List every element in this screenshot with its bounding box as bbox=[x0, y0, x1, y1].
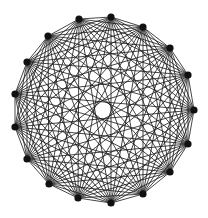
graph-edge bbox=[48, 36, 49, 184]
graph-vertex bbox=[184, 71, 191, 78]
graph-edge bbox=[78, 19, 79, 198]
graph-vertex bbox=[107, 13, 114, 20]
graph-vertex bbox=[45, 180, 52, 187]
graph-vertex bbox=[11, 123, 18, 130]
graph-vertex bbox=[23, 58, 30, 65]
graph-vertex bbox=[139, 190, 146, 197]
graph-vertex bbox=[190, 106, 197, 113]
graph-vertex bbox=[11, 90, 18, 97]
graph-vertex bbox=[75, 15, 82, 22]
graph-vertex bbox=[166, 44, 173, 51]
graph-vertex bbox=[107, 199, 114, 206]
graph-vertex bbox=[139, 23, 146, 30]
graph-vertex bbox=[184, 140, 191, 147]
graph-edge bbox=[111, 17, 194, 110]
graph-edge bbox=[27, 36, 48, 62]
complete-graph-diagram bbox=[0, 0, 208, 218]
graph-edge bbox=[15, 19, 79, 94]
graph-vertex bbox=[166, 168, 173, 175]
graph-vertex bbox=[44, 32, 51, 39]
graph-vertex bbox=[23, 155, 30, 162]
graph-vertex bbox=[74, 194, 81, 201]
edges-group bbox=[15, 17, 194, 203]
graph-edge bbox=[15, 127, 143, 194]
